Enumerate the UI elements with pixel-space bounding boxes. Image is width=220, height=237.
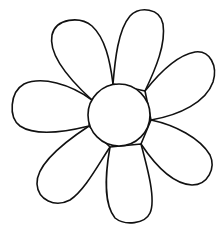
flower-center (88, 84, 150, 146)
petal-bottom (106, 144, 152, 223)
flower-drawing (0, 0, 220, 237)
petal-lower-right (141, 120, 212, 185)
